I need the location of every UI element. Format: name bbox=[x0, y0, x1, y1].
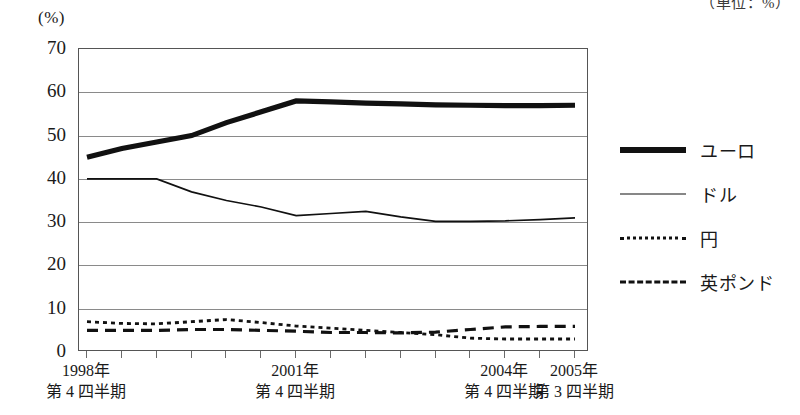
y-tick-label-40: 40 bbox=[47, 168, 66, 187]
legend-label-1: ドル bbox=[686, 181, 737, 207]
legend-item-2[interactable]: 円 bbox=[620, 216, 798, 260]
x-tick-label-quarter: 第 4 四半期 bbox=[11, 381, 161, 402]
y-tick-label-0: 0 bbox=[57, 341, 67, 360]
x-tick-14 bbox=[574, 351, 575, 358]
x-tick-10 bbox=[435, 351, 436, 358]
y-tick-label-60: 60 bbox=[47, 81, 66, 100]
unit-caption: （単位：%） bbox=[700, 0, 791, 12]
legend-item-3[interactable]: 英ポンド bbox=[620, 260, 798, 304]
y-tick-label-30: 30 bbox=[47, 211, 66, 230]
x-tick-8 bbox=[365, 351, 366, 358]
x-tick-label-year: 1998年 bbox=[11, 360, 161, 381]
x-tick-2 bbox=[156, 351, 157, 358]
y-tick-label-70: 70 bbox=[47, 38, 66, 57]
chart-container: （単位：%） (%) 706050403020100 1998年第 4 四半期2… bbox=[0, 0, 800, 415]
x-tick-label-0: 1998年第 4 四半期 bbox=[11, 360, 161, 402]
x-tick-7 bbox=[330, 351, 331, 358]
series-line-3 bbox=[87, 326, 575, 332]
y-axis-unit-label: (%) bbox=[38, 8, 65, 28]
x-tick-5 bbox=[260, 351, 261, 358]
x-tick-label-3: 2005年第 3 四半期 bbox=[499, 360, 649, 402]
legend-swatch-icon-2 bbox=[620, 231, 686, 245]
legend-swatch-icon-0 bbox=[620, 143, 686, 157]
x-tick-label-quarter: 第 3 四半期 bbox=[499, 381, 649, 402]
chart-legend: ユーロドル円英ポンド bbox=[620, 128, 798, 304]
x-tick-13 bbox=[539, 351, 540, 358]
legend-item-1[interactable]: ドル bbox=[620, 172, 798, 216]
series-layer bbox=[79, 49, 589, 352]
x-tick-1 bbox=[121, 351, 122, 358]
x-tick-label-1: 2001年第 4 四半期 bbox=[220, 360, 370, 402]
x-tick-6 bbox=[295, 351, 296, 358]
x-tick-label-year: 2005年 bbox=[499, 360, 649, 381]
legend-swatch-icon-1 bbox=[620, 187, 686, 201]
y-tick-label-20: 20 bbox=[47, 254, 66, 273]
legend-swatch-icon-3 bbox=[620, 275, 686, 289]
x-tick-3 bbox=[191, 351, 192, 358]
x-tick-12 bbox=[504, 351, 505, 358]
y-tick-label-50: 50 bbox=[47, 125, 66, 144]
plot-area bbox=[78, 48, 588, 351]
legend-label-3: 英ポンド bbox=[686, 269, 774, 295]
y-tick-label-10: 10 bbox=[47, 298, 66, 317]
legend-label-2: 円 bbox=[686, 225, 719, 251]
x-tick-11 bbox=[469, 351, 470, 358]
x-tick-0 bbox=[86, 351, 87, 358]
series-line-0 bbox=[87, 101, 575, 157]
x-tick-label-year: 2001年 bbox=[220, 360, 370, 381]
legend-label-0: ユーロ bbox=[686, 137, 756, 163]
x-tick-4 bbox=[225, 351, 226, 358]
x-tick-9 bbox=[400, 351, 401, 358]
legend-item-0[interactable]: ユーロ bbox=[620, 128, 798, 172]
x-tick-label-quarter: 第 4 四半期 bbox=[220, 381, 370, 402]
series-line-1 bbox=[87, 179, 575, 221]
